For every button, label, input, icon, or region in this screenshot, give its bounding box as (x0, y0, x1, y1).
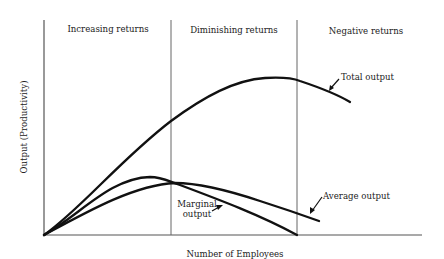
average-output-curve (44, 183, 319, 235)
marginal-output-label-line2: output (183, 209, 212, 219)
marginal-output-label-line1: Marginal (177, 199, 217, 209)
region-label-negative: Negative returns (329, 26, 403, 36)
y-axis-label: Output (Productivity) (19, 81, 29, 174)
economics-returns-chart: Increasing returns Diminishing returns N… (0, 0, 444, 259)
total-output-pointer (331, 79, 339, 88)
region-label-increasing: Increasing returns (67, 24, 148, 34)
x-axis-label: Number of Employees (187, 249, 284, 259)
average-output-pointer (312, 197, 322, 211)
total-output-label: Total output (341, 72, 394, 82)
arrow-head-icon (216, 205, 223, 210)
average-output-label: Average output (322, 191, 391, 201)
region-label-diminishing: Diminishing returns (190, 25, 278, 35)
